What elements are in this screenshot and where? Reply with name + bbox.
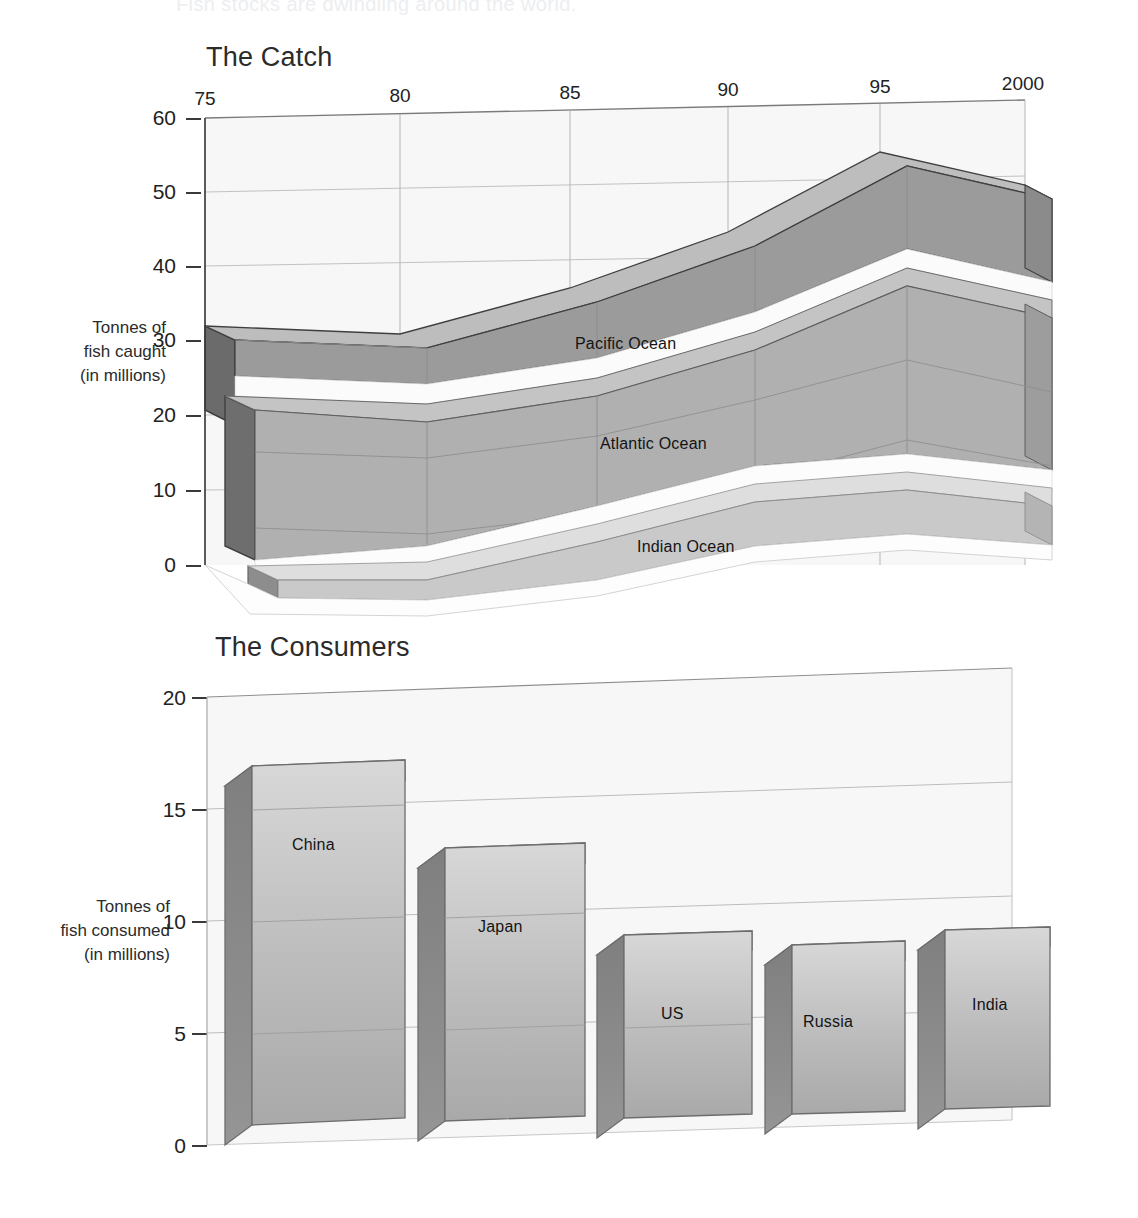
chart2-plot bbox=[0, 600, 1138, 1218]
chart2-bar-india bbox=[918, 927, 1050, 1129]
chart2-bar-japan-face bbox=[445, 843, 585, 1121]
chart2-bar-label-russia: Russia bbox=[803, 1013, 853, 1031]
chart2-bar-us bbox=[597, 931, 752, 1138]
poster-canvas: Fish stocks are dwindling around the wor… bbox=[0, 0, 1138, 1218]
chart2-bar-china-side bbox=[225, 766, 252, 1145]
chart1-atlantic-endcap bbox=[225, 396, 255, 560]
chart2-bar-japan bbox=[418, 843, 585, 1141]
chart2-bar-china bbox=[225, 760, 405, 1145]
chart2-bar-label-china: China bbox=[292, 836, 335, 854]
chart2-bar-us-side bbox=[597, 935, 624, 1138]
chart1-series-label-indian: Indian Ocean bbox=[637, 538, 735, 556]
chart2-bar-china-face bbox=[252, 760, 405, 1125]
chart2-bar-india-side bbox=[918, 930, 945, 1129]
chart2-bar-label-japan: Japan bbox=[478, 918, 523, 936]
chart2-bar-russia bbox=[765, 941, 905, 1134]
chart1-series-label-atlantic: Atlantic Ocean bbox=[600, 435, 707, 453]
chart1-plot bbox=[0, 0, 1138, 640]
chart1-series-label-pacific: Pacific Ocean bbox=[575, 335, 676, 353]
chart2-bar-india-face bbox=[945, 927, 1050, 1109]
chart2-bar-label-us: US bbox=[661, 1005, 684, 1023]
chart2-bar-japan-side bbox=[418, 848, 445, 1141]
chart2-bar-label-india: India bbox=[972, 996, 1008, 1014]
chart1-pacific-rightcap bbox=[1025, 185, 1052, 282]
chart2-bar-russia-side bbox=[765, 945, 792, 1134]
